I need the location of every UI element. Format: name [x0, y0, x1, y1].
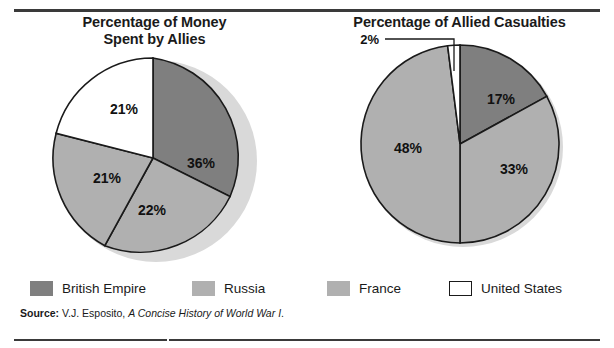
chart-title-casualties: Percentage of Allied Casualties [307, 14, 612, 31]
chart-panel-money: Percentage of Money Spent by Allies 36% … [2, 14, 307, 314]
bottom-rule-right [169, 339, 600, 341]
source-note: Source: V.J. Esposito, A Concise History… [20, 307, 284, 319]
pie-label-russia: 22% [137, 202, 166, 218]
chart-title-money: Percentage of Money Spent by Allies [2, 14, 307, 48]
legend-item-russia[interactable]: Russia [192, 281, 265, 296]
bottom-rule-left [14, 339, 167, 341]
legend-item-british-empire[interactable]: British Empire [30, 281, 146, 296]
legend-money: British Empire Russia [2, 277, 307, 299]
pie-label-united-states: 2% [360, 32, 379, 47]
pie-label-british-empire: 36% [186, 155, 215, 171]
pie-label-british-empire: 17% [486, 91, 515, 107]
chart-panel-casualties: Percentage of Allied Casualties 17% 33% … [307, 14, 612, 314]
legend-casualties: France United States [307, 277, 612, 299]
top-rule [14, 9, 600, 12]
legend-label-united-states: United States [481, 281, 562, 296]
legend-item-united-states[interactable]: United States [449, 281, 562, 296]
pie-chart-casualties: 17% 33% 48% 2% [335, 31, 585, 249]
legend-swatch-icon-russia [192, 281, 215, 296]
pie-wrap-casualties: 17% 33% 48% 2% [307, 31, 612, 249]
pie-label-france: 48% [393, 140, 422, 156]
legend-swatch-icon-france [327, 281, 350, 296]
pie-label-france: 21% [92, 170, 121, 186]
source-period: . [281, 307, 284, 319]
legend-item-france[interactable]: France [327, 281, 401, 296]
legend-label-british-empire: British Empire [62, 281, 146, 296]
source-label: Source: [20, 307, 59, 319]
source-author: V.J. Esposito, [62, 307, 125, 319]
pie-wrap-money: 36% 22% 21% 21% [2, 48, 307, 266]
legend-label-russia: Russia [224, 281, 265, 296]
legend-swatch-icon-british-empire [30, 281, 53, 296]
pie-label-russia: 33% [499, 161, 528, 177]
pie-label-united-states: 21% [109, 101, 138, 117]
legend-swatch-icon-united-states [449, 281, 472, 296]
pie-chart-money: 36% 22% 21% 21% [40, 48, 270, 266]
source-title: A Concise History of World War I [128, 307, 281, 319]
figure-container: Percentage of Money Spent by Allies 36% … [0, 0, 614, 348]
legend-label-france: France [359, 281, 401, 296]
